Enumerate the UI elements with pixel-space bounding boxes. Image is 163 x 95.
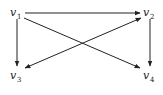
- svg-text:v: v: [143, 69, 150, 82]
- svg-text:3: 3: [17, 76, 21, 84]
- node-v1: v 1: [10, 6, 21, 21]
- node-v4: v 4: [143, 69, 155, 84]
- svg-text:4: 4: [150, 76, 155, 84]
- svg-text:v: v: [10, 6, 17, 19]
- svg-text:2: 2: [150, 13, 154, 21]
- svg-text:1: 1: [17, 13, 21, 21]
- directed-graph: v 1 v 2 v 3 v 4: [0, 0, 163, 95]
- svg-text:v: v: [10, 69, 17, 82]
- node-v3: v 3: [10, 69, 21, 84]
- node-v2: v 2: [143, 6, 154, 21]
- svg-text:v: v: [143, 6, 150, 19]
